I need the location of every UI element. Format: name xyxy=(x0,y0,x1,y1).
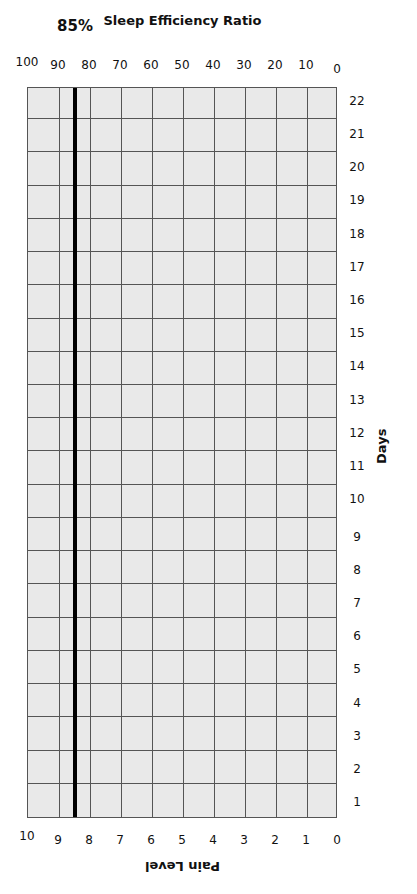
x-tick-label: 18 xyxy=(349,228,364,240)
right-tick-label: 30 xyxy=(236,59,251,71)
grid-line-horizontal xyxy=(214,88,215,817)
left-tick-label: 4 xyxy=(209,834,217,846)
left-tick-label: 5 xyxy=(178,834,186,846)
x-tick-label: 2 xyxy=(353,763,361,775)
grid-line-horizontal xyxy=(276,88,277,817)
left-tick-label: 9 xyxy=(54,834,62,846)
x-tick-label: 14 xyxy=(349,361,364,373)
chart: 12345678910111213141516171819202122 0123… xyxy=(0,0,417,894)
x-tick-label: 19 xyxy=(349,195,364,207)
x-tick-label: 17 xyxy=(349,261,364,273)
left-tick-label: 0 xyxy=(333,834,341,846)
x-tick-label: 16 xyxy=(349,294,364,306)
right-axis-title: Sleep Efficiency Ratio xyxy=(104,13,262,28)
left-tick-label: 6 xyxy=(147,834,155,846)
left-tick-label: 3 xyxy=(240,834,248,846)
plot-grid xyxy=(27,87,337,818)
x-tick-label: 11 xyxy=(349,460,364,472)
x-tick-label: 8 xyxy=(353,564,361,576)
x-tick-label: 9 xyxy=(353,531,361,543)
right-tick-label: 50 xyxy=(174,59,189,71)
grid-line-horizontal xyxy=(59,88,60,817)
left-tick-label: 10 xyxy=(19,830,34,842)
left-axis-title: Pain Level xyxy=(145,859,220,874)
right-tick-label: 60 xyxy=(143,59,158,71)
x-tick-label: 22 xyxy=(349,95,364,107)
x-tick-label: 10 xyxy=(349,494,364,506)
x-tick-label: 3 xyxy=(353,730,361,742)
x-tick-label: 21 xyxy=(349,128,364,140)
right-tick-label: 20 xyxy=(267,59,282,71)
left-tick-label: 1 xyxy=(302,834,310,846)
right-tick-label: 0 xyxy=(333,63,341,75)
left-tick-label: 2 xyxy=(271,834,279,846)
x-tick-label: 20 xyxy=(349,161,364,173)
x-tick-label: 15 xyxy=(349,328,364,340)
grid-line-horizontal xyxy=(121,88,122,817)
grid-line-horizontal xyxy=(152,88,153,817)
x-tick-label: 4 xyxy=(353,697,361,709)
right-tick-label: 40 xyxy=(205,59,220,71)
reference-line-label: 85% xyxy=(57,17,93,35)
grid-line-horizontal xyxy=(307,88,308,817)
right-tick-label: 90 xyxy=(50,59,65,71)
x-tick-label: 13 xyxy=(349,394,364,406)
grid-line-horizontal xyxy=(90,88,91,817)
x-tick-label: 7 xyxy=(353,597,361,609)
left-tick-label: 8 xyxy=(85,834,93,846)
x-tick-label: 12 xyxy=(349,427,364,439)
x-axis-title: Days xyxy=(374,429,389,464)
right-tick-label: 80 xyxy=(81,59,96,71)
right-tick-label: 100 xyxy=(16,56,39,68)
reference-line-85 xyxy=(73,88,77,817)
x-tick-label: 1 xyxy=(353,797,361,809)
left-tick-label: 7 xyxy=(116,834,124,846)
grid-line-horizontal xyxy=(183,88,184,817)
grid-line-horizontal xyxy=(245,88,246,817)
right-tick-label: 10 xyxy=(298,59,313,71)
x-tick-label: 6 xyxy=(353,630,361,642)
right-tick-label: 70 xyxy=(112,59,127,71)
x-tick-label: 5 xyxy=(353,664,361,676)
